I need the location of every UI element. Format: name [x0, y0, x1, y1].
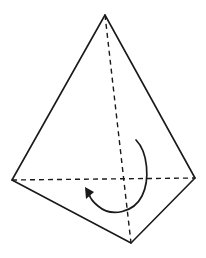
edge-apex-left	[12, 15, 105, 180]
edge-right-front	[131, 178, 195, 243]
edge-apex-right	[105, 15, 195, 178]
hidden-edge-apex-front	[105, 15, 131, 243]
rotation-arrow-icon	[85, 140, 147, 212]
tetrahedron-diagram	[0, 0, 206, 258]
edge-left-front	[12, 180, 131, 243]
hidden-edge-left-right	[12, 178, 195, 180]
